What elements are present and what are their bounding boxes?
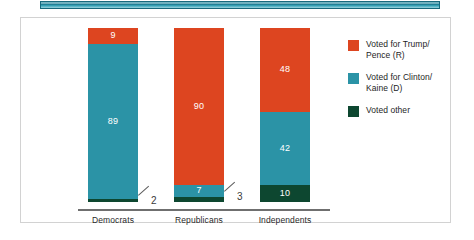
segment-other-democrats: 2 [88,199,138,202]
legend-item-trump-pence[interactable]: Voted for Trump/Pence (R) [348,39,446,61]
segment-democrat-independents: 42 [260,112,310,185]
legend-label-clinton-kaine: Voted for Clinton/Kaine (D) [366,72,432,94]
segment-republican-democrats: 9 [88,28,138,44]
legend-label-trump-pence: Voted for Trump/Pence (R) [366,39,430,61]
legend-label-line2: Kaine (D) [366,83,402,93]
legend-label-line1: Voted for Trump/ [366,39,430,49]
legend-item-clinton-kaine[interactable]: Voted for Clinton/Kaine (D) [348,72,446,94]
bar-group-democrats[interactable]: 9 89 2 [88,28,138,202]
leader-line-icon [138,195,149,206]
axis-baseline [78,209,330,211]
chart-panel: 9 89 2 90 7 3 48 42 10 2 3 Democrats Rep… [20,17,451,223]
legend-item-other[interactable]: Voted other [348,105,446,117]
banner-highlight [41,2,439,4]
bar-group-republicans[interactable]: 90 7 3 [174,28,224,202]
x-axis-label-republicans: Republicans [151,215,247,225]
legend-label-line2: Pence (R) [366,50,405,60]
callout-value: 2 [151,195,157,206]
legend-label-other: Voted other [366,105,410,116]
x-axis-label-democrats: Democrats [65,215,161,225]
segment-republican-republicans: 90 [174,28,224,185]
callout-value: 3 [237,191,243,202]
segment-democrat-democrats: 89 [88,44,138,199]
top-banner-strip [0,0,474,11]
legend-label-line1: Voted for Clinton/ [366,72,432,82]
bar-group-independents[interactable]: 48 42 10 [260,28,310,202]
legend-swatch-teal [348,73,359,84]
stacked-bar-plot: 9 89 2 90 7 3 48 42 10 2 3 Democrats Rep… [76,27,331,210]
legend-swatch-darkgreen [348,106,359,117]
leader-line-icon [224,191,235,202]
segment-democrat-republicans: 7 [174,185,224,197]
segment-other-independents: 10 [260,185,310,202]
legend-swatch-red [348,40,359,51]
segment-republican-independents: 48 [260,28,310,112]
x-axis-label-independents: Independents [237,215,333,225]
chart-legend: Voted for Trump/Pence (R) Voted for Clin… [348,39,446,128]
segment-other-republicans: 3 [174,197,224,202]
